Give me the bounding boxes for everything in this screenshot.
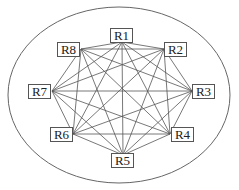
edge-R2-R4 bbox=[164, 49, 170, 134]
node-r6: R6 bbox=[50, 127, 73, 142]
edge-R1-R5 bbox=[122, 42, 123, 155]
node-r8: R8 bbox=[57, 42, 80, 57]
node-r4: R4 bbox=[171, 127, 194, 142]
edge-R1-R8 bbox=[81, 42, 122, 49]
edge-R2-R6 bbox=[73, 49, 164, 134]
node-r3: R3 bbox=[192, 84, 215, 99]
node-r5: R5 bbox=[111, 153, 134, 168]
node-r2: R2 bbox=[164, 42, 187, 57]
edge-R4-R8 bbox=[81, 49, 170, 134]
node-r7: R7 bbox=[28, 84, 51, 99]
edge-R5-R8 bbox=[81, 49, 123, 155]
edge-R3-R5 bbox=[123, 91, 192, 155]
edge-R5-R7 bbox=[52, 91, 123, 155]
node-r1: R1 bbox=[110, 28, 133, 43]
complete-graph-diagram: R1R2R3R4R5R6R7R8 bbox=[0, 0, 239, 190]
edge-R1-R2 bbox=[122, 42, 164, 49]
